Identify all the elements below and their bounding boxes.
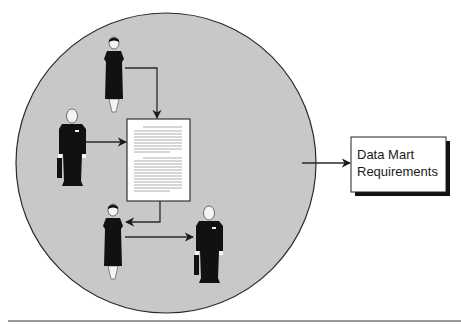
output-box-line2: Requirements [357,163,447,180]
requirements-document-icon [127,119,190,201]
output-box-label: Data Mart Requirements [357,146,447,180]
output-box-line1: Data Mart [357,146,447,163]
